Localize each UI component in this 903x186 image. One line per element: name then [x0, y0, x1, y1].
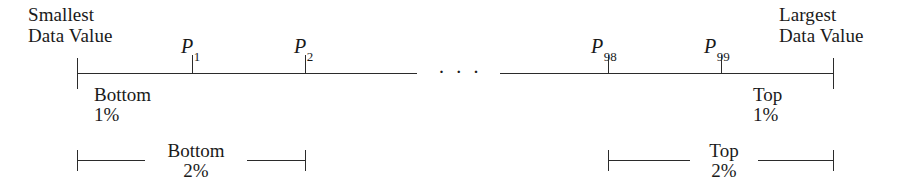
tick-p98 — [608, 55, 609, 74]
percentile-subscript-p1: 1 — [194, 49, 201, 64]
smallest-data-value-line2: Data Value — [28, 25, 113, 46]
percentile-symbol-p1: P — [181, 35, 193, 57]
bottom-2-percent-line1: Bottom — [148, 141, 244, 161]
axis-ellipsis: · · · — [438, 62, 482, 83]
bottom-1-percent-line2: 1% — [94, 105, 151, 125]
smallest-data-value-label: Smallest Data Value — [28, 4, 113, 46]
smallest-data-value-line1: Smallest — [28, 4, 113, 25]
top-2-percent-line2: 2% — [693, 161, 755, 181]
percentile-diagram: Smallest Data Value Largest Data Value P… — [0, 0, 903, 186]
tick-p2 — [305, 55, 306, 74]
top-2-percent-line1: Top — [693, 141, 755, 161]
percentile-label-p1: P1 — [181, 36, 200, 60]
axis-right-segment — [500, 73, 833, 74]
percentile-subscript-p99: 99 — [717, 49, 730, 64]
percentile-symbol-p2: P — [294, 35, 306, 57]
top-1-percent-line1: Top — [753, 85, 782, 105]
tick-p1 — [192, 55, 193, 74]
bottom-1-percent-label: Bottom 1% — [94, 85, 151, 125]
axis-left-segment — [77, 73, 417, 74]
percentile-label-p2: P2 — [294, 36, 313, 60]
largest-data-value-label: Largest Data Value — [779, 4, 864, 46]
axis-right-endcap — [833, 58, 834, 89]
bracket-top-2-percent-left-cap — [608, 150, 609, 171]
percentile-symbol-p98: P — [591, 35, 603, 57]
bottom-2-percent-label: Bottom 2% — [145, 141, 247, 181]
bottom-1-percent-line1: Bottom — [94, 85, 151, 105]
largest-data-value-line2: Data Value — [779, 25, 864, 46]
tick-p99 — [721, 55, 722, 74]
top-1-percent-line2: 1% — [753, 105, 782, 125]
axis-left-endcap — [77, 58, 78, 89]
bottom-2-percent-line2: 2% — [148, 161, 244, 181]
bracket-top-2-percent-right-cap — [833, 150, 834, 171]
percentile-subscript-p98: 98 — [604, 49, 617, 64]
percentile-subscript-p2: 2 — [307, 49, 314, 64]
largest-data-value-line1: Largest — [779, 4, 864, 25]
top-1-percent-label: Top 1% — [753, 85, 782, 125]
bracket-bottom-2-percent-right-cap — [305, 150, 306, 171]
percentile-label-p98: P98 — [591, 36, 616, 60]
percentile-label-p99: P99 — [704, 36, 729, 60]
top-2-percent-label: Top 2% — [690, 141, 758, 181]
percentile-symbol-p99: P — [704, 35, 716, 57]
bracket-bottom-2-percent-left-cap — [77, 150, 78, 171]
